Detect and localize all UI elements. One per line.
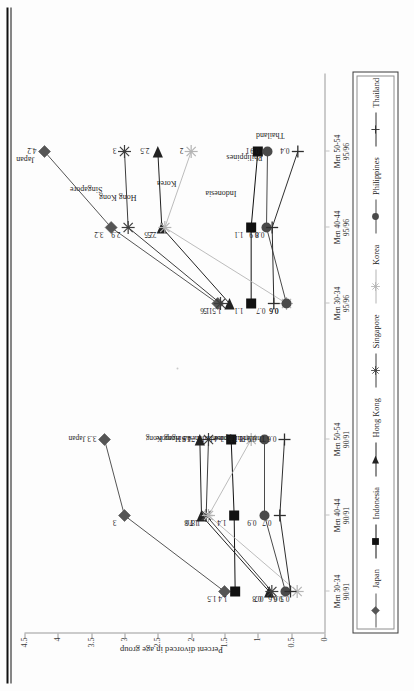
data-label: 1.1 bbox=[233, 305, 242, 313]
data-label: 1.5 bbox=[207, 593, 216, 601]
circle-icon bbox=[368, 199, 382, 233]
data-label: 0.6 bbox=[273, 593, 282, 601]
data-label: 0.7 bbox=[262, 517, 271, 525]
x-tick-label-line1: Men 50-54 bbox=[332, 394, 341, 484]
rotated-figure: Percent divorced in age group 00.511.522… bbox=[0, 0, 414, 691]
series-annotation: Singapore bbox=[70, 184, 102, 193]
data-label: 0.6 bbox=[269, 305, 278, 313]
data-label: 1.1 bbox=[233, 229, 242, 237]
y-tick-label: 4 bbox=[52, 637, 61, 677]
series-annotation: Thailand bbox=[256, 130, 284, 139]
asterisk-glyph bbox=[370, 365, 380, 375]
data-label: 1.4 bbox=[216, 517, 225, 525]
scanned-page: Percent divorced in age group 00.511.522… bbox=[0, 0, 414, 691]
triangle-icon bbox=[368, 442, 382, 476]
chart-plot-area: Percent divorced in age group 00.511.522… bbox=[24, 73, 324, 633]
star-glyph bbox=[370, 281, 380, 291]
plus-glyph bbox=[370, 124, 380, 134]
data-label: 2 bbox=[179, 145, 183, 153]
data-label: 0.8 bbox=[254, 229, 263, 237]
x-tick bbox=[324, 438, 329, 439]
legend-item-korea[interactable]: Korea bbox=[368, 244, 382, 303]
legend-item-singapore[interactable]: Singapore bbox=[368, 314, 382, 387]
data-label: 0.9 bbox=[247, 517, 256, 525]
y-tick-label: 4.5 bbox=[19, 637, 28, 677]
data-label: 1.74 Singapore bbox=[155, 433, 200, 441]
series-annotation: Indonesia bbox=[205, 188, 236, 197]
square-marker bbox=[372, 538, 379, 545]
y-axis-title: Percent divorced in age group bbox=[21, 644, 321, 654]
data-label: 4.2 bbox=[27, 145, 36, 153]
asterisk-marker bbox=[371, 366, 380, 375]
legend-label: Singapore bbox=[371, 314, 380, 348]
legend-item-indonesia[interactable]: Indonesia bbox=[368, 487, 382, 559]
page-rule-thin bbox=[10, 7, 11, 683]
star-marker bbox=[184, 145, 197, 158]
triangle-glyph bbox=[370, 454, 380, 464]
data-label: 2.9 bbox=[110, 229, 119, 237]
series-annotation: Hong Kong bbox=[98, 192, 136, 201]
plus-marker bbox=[278, 433, 290, 445]
diamond-marker bbox=[118, 509, 130, 521]
triangle-marker bbox=[372, 455, 379, 463]
circle-marker bbox=[262, 146, 272, 156]
data-label: 3.3 Japan bbox=[68, 433, 96, 441]
plus-icon bbox=[368, 112, 382, 146]
x-tick-label: Men 50-5495/96 bbox=[332, 106, 350, 196]
y-tick-label: 2 bbox=[186, 637, 195, 677]
y-tick-label: 2.5 bbox=[152, 637, 161, 677]
series-line-singapore bbox=[124, 151, 220, 303]
star-icon bbox=[368, 269, 382, 303]
page-rule-thick bbox=[6, 7, 8, 683]
series-annotation: Korea bbox=[156, 178, 176, 187]
circle-glyph bbox=[370, 211, 380, 221]
square-icon bbox=[368, 524, 382, 558]
data-label: 2.5 bbox=[140, 145, 149, 153]
x-tick-label-line2: 90/91 bbox=[341, 394, 350, 484]
chart-legend: JapanIndonesiaHong KongSingaporeKoreaPhi… bbox=[352, 71, 398, 633]
legend-label: Korea bbox=[371, 244, 380, 264]
x-tick bbox=[324, 150, 329, 151]
y-tick-label: 3 bbox=[119, 637, 128, 677]
asterisk-marker bbox=[118, 145, 131, 158]
square-marker bbox=[246, 298, 256, 308]
legend-label: Japan bbox=[371, 569, 380, 588]
legend-item-japan[interactable]: Japan bbox=[368, 569, 382, 627]
data-label: 0.7 bbox=[256, 305, 265, 313]
data-label: 2.5 bbox=[147, 229, 156, 237]
asterisk-marker bbox=[121, 221, 134, 234]
legend-label: Hong Kong bbox=[371, 398, 380, 437]
plus-marker bbox=[273, 509, 285, 521]
x-tick-label-line1: Men 50-54 bbox=[332, 106, 341, 196]
y-tick-label: 1.5 bbox=[219, 637, 228, 677]
y-tick-label: 0 bbox=[319, 637, 328, 677]
legend-item-philippines[interactable]: Philippines bbox=[368, 157, 382, 234]
y-tick-label: 3.5 bbox=[86, 637, 95, 677]
circle-marker bbox=[372, 213, 379, 220]
x-tick bbox=[324, 302, 329, 303]
data-label: 3 bbox=[112, 517, 116, 525]
data-label: 3 bbox=[112, 145, 116, 153]
x-tick bbox=[324, 226, 329, 227]
square-marker bbox=[229, 510, 239, 520]
star-marker bbox=[371, 282, 380, 291]
data-label: 0.7 bbox=[254, 593, 263, 601]
data-label: 0.6 Thailand bbox=[239, 433, 276, 441]
x-tick-label-line2: 95/96 bbox=[341, 106, 350, 196]
triangle-marker bbox=[152, 146, 162, 157]
legend-item-thailand[interactable]: Thailand bbox=[368, 77, 382, 146]
chart-series-canvas bbox=[24, 73, 324, 633]
data-label: 3.2 bbox=[93, 229, 102, 237]
data-label: 0.4 bbox=[280, 145, 289, 153]
diamond-marker bbox=[371, 606, 379, 614]
diamond-glyph bbox=[370, 605, 380, 615]
plus-marker bbox=[291, 145, 303, 157]
x-tick bbox=[324, 514, 329, 515]
data-label: 1.5 bbox=[203, 305, 212, 313]
data-label: 1.8 bbox=[191, 517, 200, 525]
legend-label: Thailand bbox=[371, 77, 380, 107]
legend-item-hong-kong[interactable]: Hong Kong bbox=[368, 398, 382, 476]
y-tick-label: 0.5 bbox=[286, 637, 295, 677]
square-glyph bbox=[370, 536, 380, 546]
series-annotation: Japan bbox=[16, 154, 34, 163]
